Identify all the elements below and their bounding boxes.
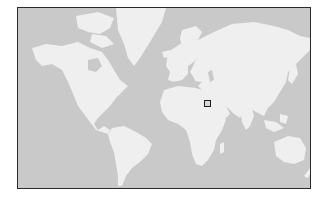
location-marker[interactable] [204, 100, 211, 107]
world-map[interactable] [17, 7, 311, 189]
madagascar [220, 142, 224, 154]
world-map-graphic [18, 8, 311, 189]
